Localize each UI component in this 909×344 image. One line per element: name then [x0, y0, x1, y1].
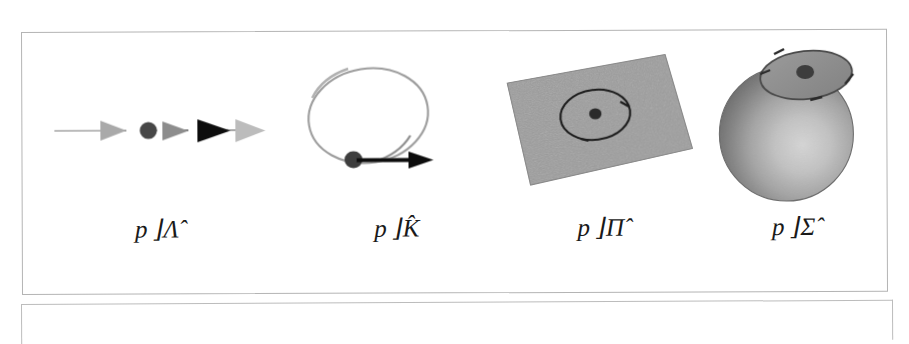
tangent-arrow-head	[408, 151, 433, 168]
arrowhead-2	[162, 121, 188, 140]
diagram-plane-with-circle	[502, 30, 699, 216]
panel-lambda: p ⌋Λ̂	[22, 32, 291, 296]
plane-surface	[507, 54, 692, 185]
diagram-loop-with-tangent	[290, 31, 503, 217]
panel-pi: p ⌋Π̂	[502, 30, 699, 294]
panel-label-pi: p ⌋Π̂	[503, 212, 699, 242]
label-text-lambda: p ⌋Λ̂	[135, 215, 179, 242]
arrowhead-1	[100, 121, 126, 141]
diagram-line-with-arrowheads	[22, 32, 291, 218]
figure-frame: p ⌋Λ̂	[21, 29, 888, 295]
point-p	[796, 65, 814, 79]
arrowhead-3	[197, 119, 230, 142]
next-figure-frame	[21, 300, 893, 344]
label-text-sigma: p ⌋Σ̂	[772, 213, 815, 240]
arrowhead-4	[235, 119, 265, 142]
panel-label-lambda: p ⌋Λ̂	[23, 214, 291, 244]
point-p	[344, 151, 362, 168]
label-text-k: p ⌋K̂	[374, 214, 419, 241]
sphere-body	[719, 67, 854, 202]
panel-label-sigma: p ⌋Σ̂	[699, 212, 889, 242]
point-p	[140, 122, 157, 139]
label-text-pi: p ⌋Π̂	[577, 214, 624, 241]
tangent-disk	[758, 46, 855, 104]
loop-curve	[302, 60, 436, 172]
circle-outline	[557, 86, 633, 144]
point-p	[589, 108, 601, 119]
panel-row: p ⌋Λ̂	[22, 30, 889, 296]
panel-sigma: p ⌋Σ̂	[698, 30, 889, 294]
diagram-sphere-with-disk	[698, 30, 889, 216]
panel-k: p ⌋K̂	[290, 31, 503, 295]
panel-label-k: p ⌋K̂	[291, 213, 503, 243]
